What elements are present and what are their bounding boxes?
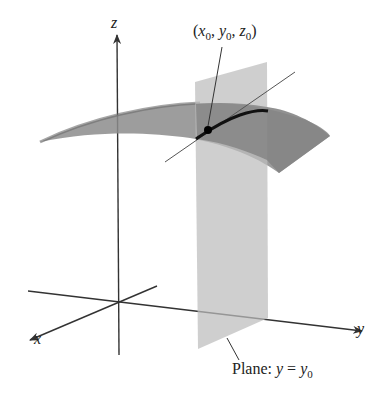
point-label: (x0, y0, z0) bbox=[193, 22, 257, 42]
diagram-canvas: z x y (x0, y0, z0) Plane: y = y0 bbox=[0, 0, 390, 395]
z-axis-label: z bbox=[111, 14, 117, 32]
plane-label-rhs-sub: 0 bbox=[307, 368, 313, 380]
plane-label-eq: = bbox=[283, 360, 300, 377]
plane-label-prefix: Plane: bbox=[232, 360, 276, 377]
plane-label: Plane: y = y0 bbox=[232, 360, 313, 380]
point-label-sep: , bbox=[211, 22, 219, 39]
diagram-graphics bbox=[0, 0, 390, 395]
x-axis-label: x bbox=[34, 330, 41, 348]
plane-leader-line bbox=[227, 338, 239, 360]
y-axis bbox=[28, 291, 362, 331]
point-label-sep: , bbox=[232, 22, 240, 39]
z-axis bbox=[117, 35, 119, 355]
point-label-y: y bbox=[219, 22, 226, 39]
point-x0-y0-z0 bbox=[204, 126, 212, 134]
point-label-close: ) bbox=[251, 22, 256, 39]
y-axis-label: y bbox=[357, 320, 364, 338]
